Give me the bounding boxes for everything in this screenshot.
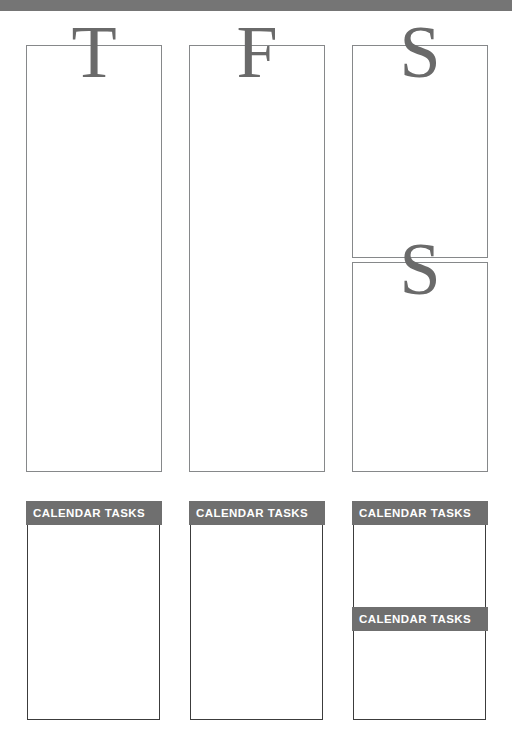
note-box-friday[interactable] (189, 45, 325, 472)
note-box-sunday[interactable] (352, 262, 488, 472)
calendar-tasks-header-sunday: CALENDAR TASKS (352, 607, 488, 631)
calendar-tasks-block-friday: CALENDAR TASKS (189, 501, 325, 720)
calendar-tasks-label: CALENDAR TASKS (26, 507, 145, 519)
calendar-tasks-header-friday: CALENDAR TASKS (189, 501, 325, 525)
calendar-tasks-body-thursday[interactable] (27, 524, 160, 720)
calendar-tasks-body-saturday[interactable] (353, 524, 486, 620)
calendar-tasks-label: CALENDAR TASKS (352, 613, 471, 625)
day-column-friday: F CALENDAR TASKS (189, 11, 325, 736)
calendar-tasks-header-thursday: CALENDAR TASKS (26, 501, 162, 525)
note-box-thursday[interactable] (26, 45, 162, 472)
calendar-tasks-body-friday[interactable] (190, 524, 323, 720)
calendar-tasks-body-sunday[interactable] (353, 630, 486, 720)
calendar-tasks-block-thursday: CALENDAR TASKS (26, 501, 162, 720)
calendar-tasks-block-sunday: CALENDAR TASKS (352, 607, 488, 720)
top-bar (0, 0, 512, 11)
planner-sheet: T CALENDAR TASKS F CALENDAR TASKS S S CA… (0, 11, 512, 736)
calendar-tasks-label: CALENDAR TASKS (189, 507, 308, 519)
note-box-saturday[interactable] (352, 45, 488, 258)
day-column-weekend: S S CALENDAR TASKS CALENDAR TASKS (352, 11, 488, 736)
calendar-tasks-label: CALENDAR TASKS (352, 507, 471, 519)
calendar-tasks-block-saturday: CALENDAR TASKS (352, 501, 488, 620)
day-column-thursday: T CALENDAR TASKS (26, 11, 162, 736)
calendar-tasks-header-saturday: CALENDAR TASKS (352, 501, 488, 525)
